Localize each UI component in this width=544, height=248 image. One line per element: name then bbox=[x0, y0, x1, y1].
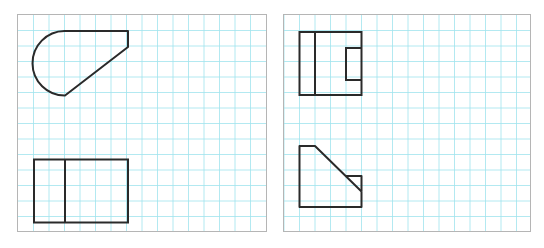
right-grid-panel bbox=[283, 14, 531, 232]
left-grid-drawing bbox=[18, 15, 267, 232]
left-grid-panel bbox=[17, 14, 267, 232]
front-view-shape bbox=[34, 160, 128, 223]
right-grid-drawing bbox=[284, 15, 531, 232]
grid-lines bbox=[18, 15, 267, 232]
grid-lines bbox=[284, 15, 531, 232]
